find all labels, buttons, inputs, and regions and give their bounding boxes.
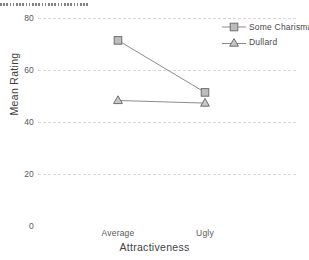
legend-label-dullard: Dullard: [246, 37, 277, 47]
triangle-marker-icon: [222, 36, 246, 48]
series-line-some-charisma: [118, 40, 205, 92]
chart-legend: Some Charisma Dullard: [222, 21, 309, 51]
data-point-dullard-average: [114, 96, 123, 104]
x-axis-title: Attractiveness: [0, 241, 309, 253]
chart-figure: 80 60 40 20 0 Mean Rating Average Ugly A…: [0, 0, 309, 260]
square-marker-icon: [222, 21, 246, 33]
data-point-some-charisma-ugly: [201, 89, 209, 97]
x-tick-label-ugly: Ugly: [170, 228, 240, 238]
series-line-dullard: [118, 101, 205, 104]
legend-label-some-charisma: Some Charisma: [246, 22, 309, 32]
legend-entry-dullard[interactable]: Dullard: [222, 36, 309, 48]
data-point-some-charisma-average: [114, 37, 122, 45]
legend-entry-some-charisma[interactable]: Some Charisma: [222, 21, 309, 33]
x-tick-label-average: Average: [83, 228, 153, 238]
data-point-dullard-ugly: [201, 98, 210, 106]
